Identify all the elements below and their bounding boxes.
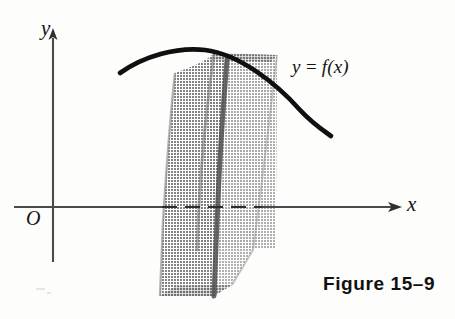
y-axis-label: y: [41, 18, 50, 39]
scan-artifact-speck: [47, 292, 51, 294]
y-axis: [49, 28, 58, 262]
x-axis-label: x: [407, 194, 416, 215]
curve-equation-label: y = f(x): [292, 57, 349, 76]
figure-panel: y x O y = f(x) Figure 15–9: [0, 0, 455, 319]
origin-label: O: [26, 208, 40, 228]
scan-artifact-speck: [36, 288, 45, 290]
figure-graphic: [0, 0, 455, 319]
figure-caption: Figure 15–9: [323, 273, 435, 295]
